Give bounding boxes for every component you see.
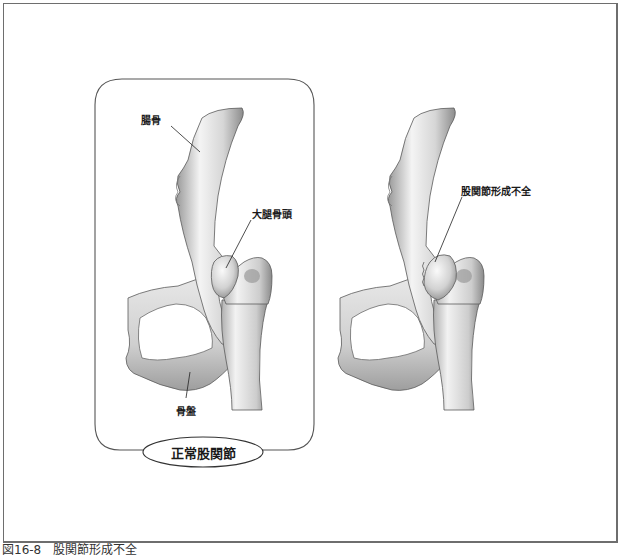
label-ilium: 腸骨 — [141, 112, 161, 127]
label-hip-dysplasia: 股関節形成不全 — [461, 183, 531, 198]
label-femoral-head: 大腿骨頭 — [252, 206, 292, 221]
figure-caption: 図16-8 股関節形成不全 — [2, 544, 137, 556]
dysplasia-hip-illustration — [338, 108, 484, 410]
label-pelvis: 骨盤 — [176, 403, 196, 418]
normal-hip-title: 正常股関節 — [144, 437, 262, 467]
normal-hip-illustration — [95, 79, 314, 467]
